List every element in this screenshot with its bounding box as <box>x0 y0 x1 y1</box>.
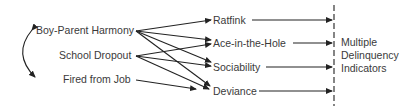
node-sociability: Sociability <box>213 61 260 73</box>
node-outcome-line1: Multiple <box>341 36 377 48</box>
node-ace-in-the-hole: Ace-in-the-Hole <box>213 37 286 49</box>
correlation-arrow <box>23 30 35 77</box>
node-school-dropout: School Dropout <box>59 49 131 61</box>
node-outcome-line2: Delinquency <box>341 49 399 61</box>
node-deviance: Deviance <box>213 85 257 97</box>
node-ratfink: Ratfink <box>213 14 246 26</box>
node-outcome-line3: Indicators <box>341 62 387 74</box>
node-boy-parent-harmony: Boy-Parent Harmony <box>36 24 134 36</box>
node-fired-from-job: Fired from Job <box>63 73 131 85</box>
